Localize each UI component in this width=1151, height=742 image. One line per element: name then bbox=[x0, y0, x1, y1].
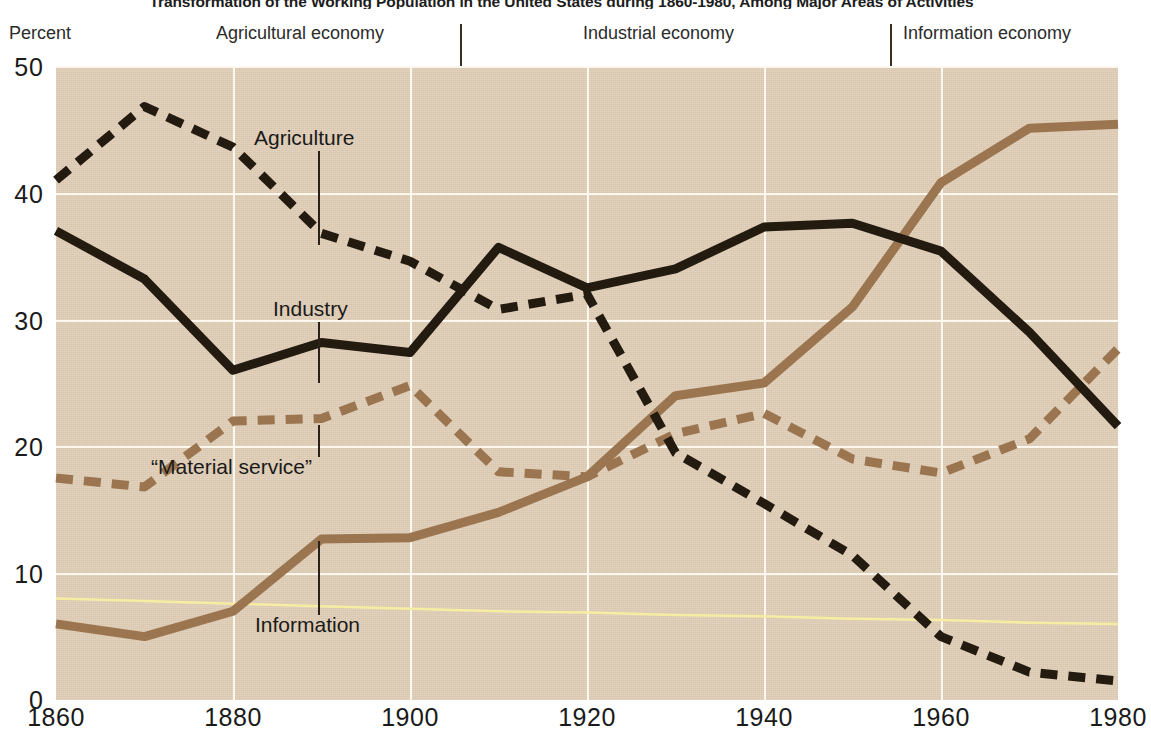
era-label-industrial: Industrial economy bbox=[583, 23, 734, 44]
x-tick-1940: 1940 bbox=[709, 703, 819, 732]
annotation-material-service: “Material service” bbox=[151, 455, 312, 479]
x-tick-1960: 1960 bbox=[886, 703, 996, 732]
series-line-industry bbox=[56, 223, 1118, 426]
annotation-industry: Industry bbox=[273, 297, 348, 321]
annotation-agriculture: Agriculture bbox=[254, 126, 354, 150]
x-tick-1980: 1980 bbox=[1063, 703, 1151, 732]
x-tick-1880: 1880 bbox=[178, 703, 288, 732]
leader-information bbox=[318, 541, 320, 615]
x-tick-1920: 1920 bbox=[532, 703, 642, 732]
y-tick-50: 50 bbox=[0, 53, 44, 82]
y-tick-10: 10 bbox=[0, 560, 44, 589]
chart-title: Transformation of the Working Population… bbox=[0, 0, 1123, 9]
x-tick-1860: 1860 bbox=[1, 703, 111, 732]
leader-agriculture bbox=[318, 151, 320, 245]
series-line-information bbox=[56, 124, 1118, 636]
y-tick-30: 30 bbox=[0, 307, 44, 336]
plot-area: Agriculture Industry “Material service” … bbox=[56, 66, 1118, 700]
annotation-information: Information bbox=[255, 613, 360, 637]
y-tick-20: 20 bbox=[0, 433, 44, 462]
series-lines bbox=[56, 66, 1118, 700]
leader-material-service bbox=[318, 425, 320, 457]
era-label-agricultural: Agricultural economy bbox=[216, 23, 384, 44]
y-axis-title: Percent bbox=[9, 23, 71, 44]
y-tick-40: 40 bbox=[0, 180, 44, 209]
leader-industry bbox=[318, 322, 320, 383]
series-line-agriculture bbox=[56, 107, 1118, 681]
x-tick-1900: 1900 bbox=[355, 703, 465, 732]
era-label-information: Information economy bbox=[903, 23, 1071, 44]
